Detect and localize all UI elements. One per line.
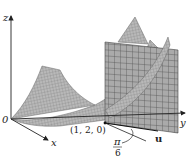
x-axis-label: x (51, 137, 57, 148)
u-vector-label: u (155, 133, 162, 144)
surface-plane-diagram: z y x 0 (1, 2, 0) u π 6 (0, 0, 188, 159)
y-axis-label: y (179, 117, 186, 128)
point-label: (1, 2, 0) (70, 125, 106, 135)
z-axis-label: z (2, 12, 9, 23)
angle-numerator: π (113, 136, 121, 147)
origin-label: 0 (2, 114, 9, 125)
surface-peak (118, 17, 148, 44)
angle-denominator: 6 (115, 148, 121, 158)
